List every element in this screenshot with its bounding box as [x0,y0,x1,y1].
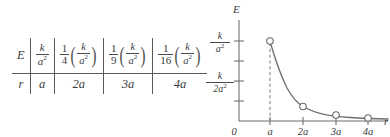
frac-denominator: 4 [60,54,70,66]
distance-cell-3: 3a [103,74,152,95]
frac-k-a2: k a2 [181,42,194,66]
field-cell-1: k a2 [30,38,54,74]
frac-denominator: a2 [126,53,139,66]
row-label-r: r [12,74,30,95]
frac-k-a2: k a2 [36,42,49,67]
x-tick-label-0: 0 [231,126,237,137]
y-axis-label: E [232,3,240,15]
distance-cell-1: a [30,74,54,95]
y-tick-label-k-over-a2: k a2 [210,31,230,54]
frac-denominator: 9 [109,54,119,66]
electric-field-table-figure: E k a2 1 4 [12,38,184,100]
frac-numerator: k [181,42,194,53]
x-tick-label-3a: 3a [330,126,342,137]
den-exponent: 2 [134,53,138,61]
frac-numerator: k [77,42,90,53]
field-cell-2: 1 4 ( k a2 ) [54,38,103,74]
expression-ninth-k-over-a2: 1 9 ( k a2 ) [109,43,147,67]
data-point-2a [300,103,307,110]
left-paren: ( [175,48,180,63]
frac-denominator: a2 [77,53,90,66]
chart-svg: E r 0 a 2a 3a 4a [196,0,390,137]
x-tick-label-4a: 4a [363,126,374,137]
frac-denominator: a2 [210,42,230,55]
x-axis-label: r [384,115,389,127]
frac-numerator: 1 [60,43,70,54]
den-exponent: 2 [43,54,47,62]
x-tick-label-a: a [267,126,272,137]
frac-coefficient: 1 16 [158,43,173,67]
frac-numerator: 1 [158,43,173,54]
frac-numerator: k [126,42,139,53]
table-row-distance: r a 2a 3a 4a [12,74,207,95]
den-exponent: 2 [84,53,88,61]
frac-numerator: k [206,71,234,82]
frac-coefficient: 1 4 [60,43,70,67]
row-label-E: E [12,38,30,74]
frac-numerator: k [36,42,49,53]
left-paren: ( [71,48,76,63]
left-paren: ( [120,48,125,63]
inverse-square-decay-chart: E r 0 a 2a 3a 4a k a2 k 2a2 [196,0,390,137]
frac-numerator: 1 [109,43,119,54]
figure-root: E k a2 1 4 [0,0,390,137]
table-row-field: E k a2 1 4 [12,38,207,74]
frac-denominator: 2a2 [206,82,234,95]
frac-coefficient: 1 9 [109,43,119,67]
frac-denominator: a2 [36,54,49,67]
field-cell-3: 1 9 ( k a2 ) [103,38,152,74]
data-point-a [267,38,274,45]
den-base: 2a [213,83,223,94]
expression-quarter-k-over-a2: 1 4 ( k a2 ) [60,43,98,67]
frac-numerator: k [210,31,230,42]
decay-curve [270,42,388,120]
frac-k-a2: k a2 [126,42,139,66]
data-point-3a [333,112,340,119]
y-tick-label-k-over-2a2: k 2a2 [206,71,234,94]
fraction-k-over-a2: k a2 [36,43,49,68]
data-point-4a [365,115,372,122]
den-exponent: 2 [188,53,192,61]
frac-k-a2: k a2 [77,42,90,66]
den-exponent: 2 [223,82,227,90]
frac-denominator: a2 [181,53,194,66]
frac-denominator: 16 [158,54,173,66]
distance-cell-2: 2a [54,74,103,95]
right-paren: ) [91,48,96,63]
x-tick-label-2a: 2a [298,126,309,137]
right-paren: ) [141,48,146,63]
den-exponent: 2 [221,42,225,50]
electric-field-vs-distance-table: E k a2 1 4 [12,38,207,94]
